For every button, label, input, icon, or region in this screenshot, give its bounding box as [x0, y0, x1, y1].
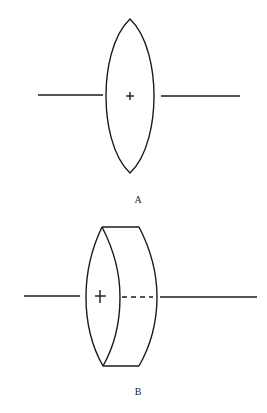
figure-b [24, 227, 257, 366]
figure-a-label: A [134, 194, 141, 205]
lens-diagram [0, 0, 267, 413]
figure-b-label: B [135, 386, 142, 397]
figure-a [38, 19, 240, 173]
